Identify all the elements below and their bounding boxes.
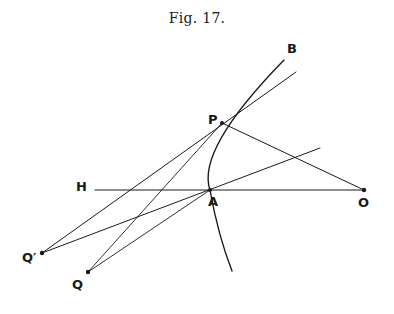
- point-Q: [86, 270, 90, 274]
- line-QprimeA: [42, 148, 320, 253]
- label-O: O: [358, 195, 369, 210]
- line-QprimeP: [42, 72, 296, 253]
- point-P: [220, 121, 224, 125]
- label-P: P: [208, 112, 218, 127]
- point-O: [362, 188, 366, 192]
- label-A: A: [208, 194, 218, 209]
- geometry-diagram: B P H A O Q′ Q: [0, 0, 394, 314]
- label-B: B: [287, 41, 297, 56]
- label-Qprime: Q′: [22, 250, 37, 265]
- label-Q: Q: [72, 277, 83, 292]
- point-Qprime: [40, 251, 44, 255]
- label-H: H: [76, 179, 87, 194]
- line-QP: [88, 123, 222, 272]
- line-PO: [222, 123, 364, 190]
- line-QA: [88, 190, 210, 272]
- point-A: [208, 188, 212, 192]
